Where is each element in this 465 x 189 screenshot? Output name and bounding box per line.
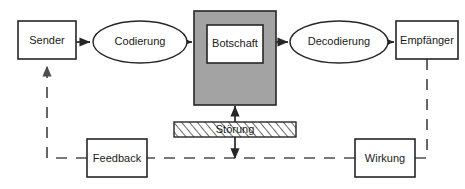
node-decodierung-label: Decodierung — [308, 35, 370, 47]
node-codierung-label: Codierung — [115, 35, 166, 47]
node-wirkung-label: Wirkung — [365, 152, 405, 164]
node-botschaft[interactable]: Botschaft — [194, 11, 276, 105]
node-codierung[interactable]: Codierung — [93, 21, 187, 63]
node-sender[interactable]: Sender — [18, 21, 76, 59]
node-feedback[interactable]: Feedback — [87, 139, 147, 177]
connection-empfaenger-to-wirkung — [415, 59, 427, 158]
node-stoerung-label: Störung — [216, 123, 255, 135]
node-feedback-label: Feedback — [93, 152, 142, 164]
node-decodierung[interactable]: Decodierung — [290, 21, 388, 63]
node-botschaft-label: Botschaft — [212, 37, 258, 49]
communication-model-diagram: Sender Codierung Botschaft Decodierung E… — [0, 0, 465, 189]
node-stoerung[interactable]: Störung — [174, 122, 296, 137]
connection-feedback-to-sender — [47, 66, 87, 158]
node-empfaenger[interactable]: Empfänger — [396, 21, 458, 59]
diagram-canvas: Sender Codierung Botschaft Decodierung E… — [0, 0, 465, 189]
node-empfaenger-label: Empfänger — [400, 34, 454, 46]
node-wirkung[interactable]: Wirkung — [355, 139, 415, 177]
node-sender-label: Sender — [29, 34, 65, 46]
